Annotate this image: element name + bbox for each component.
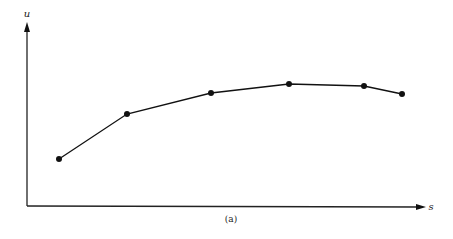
x-axis-arrow-icon	[416, 204, 426, 210]
data-point-marker	[399, 91, 405, 97]
data-point-marker	[56, 156, 62, 162]
series-line	[59, 84, 402, 159]
data-point-marker	[361, 83, 367, 89]
data-point-marker	[124, 111, 130, 117]
y-axis: u	[24, 8, 30, 206]
data-point-marker	[208, 90, 214, 96]
x-axis-label: s	[428, 201, 433, 212]
y-axis-arrow-icon	[24, 22, 30, 32]
line-chart: u s (a)	[0, 0, 453, 239]
figure-caption: (a)	[225, 214, 237, 224]
x-axis: s	[27, 201, 434, 212]
y-axis-label: u	[24, 8, 30, 19]
data-series	[56, 81, 405, 162]
data-point-marker	[286, 81, 292, 87]
